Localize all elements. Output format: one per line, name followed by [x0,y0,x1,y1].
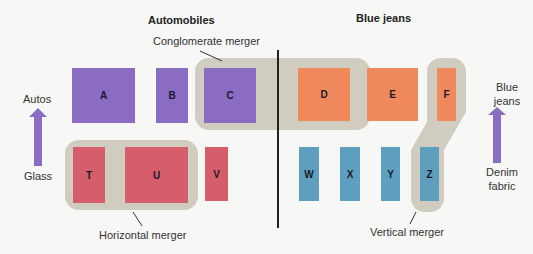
arrow-up-icon-right [0,0,533,254]
axis-right-bottom-label: Denim fabric [484,165,520,193]
